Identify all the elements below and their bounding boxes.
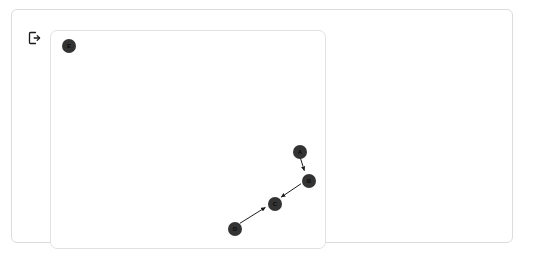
app-root: EABCD [0, 0, 533, 262]
outer-panel: EABCD [11, 9, 513, 243]
graph-canvas[interactable]: EABCD [50, 30, 326, 249]
graph-edge-a-b[interactable] [300, 158, 304, 171]
graph-edge-b-c[interactable] [281, 184, 301, 197]
graph-node-d[interactable]: D [228, 222, 242, 236]
edges-group [240, 158, 304, 223]
graph-edge-d-c[interactable] [240, 207, 265, 223]
graph-node-label: C [273, 201, 277, 207]
graph-node-c[interactable]: C [268, 197, 282, 211]
graph-node-a[interactable]: A [293, 145, 307, 159]
graph-node-label: B [307, 178, 311, 184]
graph-node-e[interactable]: E [62, 39, 76, 53]
exit-icon[interactable] [26, 30, 42, 46]
graph-node-label: E [67, 43, 71, 49]
graph-edge-layer [51, 31, 325, 248]
graph-node-label: D [233, 226, 237, 232]
graph-node-label: A [298, 149, 302, 155]
exit-icon-svg [26, 30, 42, 46]
graph-node-b[interactable]: B [302, 174, 316, 188]
